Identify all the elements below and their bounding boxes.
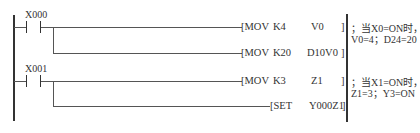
rung-2-instr-2-arg2: Y000Z1 [309, 100, 344, 112]
rung-2-instr-1-arg2: Z1 [311, 75, 323, 87]
right-power-rail [346, 14, 348, 122]
contact-label-x000: X000 [25, 9, 47, 20]
rung-1-instr-1-arg1: K4 [273, 21, 286, 33]
rung-2-comment-line2: Z1=3；Y3=ON [351, 88, 415, 99]
rung-1-wire-main [41, 27, 242, 28]
left-power-rail [13, 15, 15, 121]
rung-1-comment-line2: V0=4；D24=20 [351, 34, 417, 45]
rung-1-instr-2-arg2: D10V0 [307, 47, 338, 59]
rung-1-instr-1-arg2: V0 [311, 21, 324, 33]
rung-2-instr-2-close: ] [342, 100, 346, 112]
contact-label-x001: X001 [25, 63, 47, 74]
rung-1-instr-1-op: [MOV [241, 21, 269, 33]
rung-2-branch-vertical [53, 81, 54, 106]
rung-1-instr-2-arg1: K20 [273, 47, 291, 59]
rung-2-instr-1-arg1: K3 [273, 75, 286, 87]
rung-2-branch-wire [53, 106, 270, 107]
rung-2-wire-in [14, 81, 26, 82]
rung-1-branch-vertical [53, 27, 54, 53]
rung-2-instr-1-close: ] [341, 75, 345, 87]
rung-1-instr-1-close: ] [341, 21, 345, 33]
rung-2-comment-line1: ；当X1=ON时， [351, 77, 420, 88]
rung-1-instr-2-close: ] [341, 47, 345, 59]
rung-1-branch-wire [53, 53, 242, 54]
rung-1-wire-in [14, 27, 26, 28]
rung-1-comment-line1: ；当X0=ON时， [351, 23, 420, 34]
rung-2-instr-1-op: [MOV [241, 75, 269, 87]
rung-2-instr-2-op: [SET [270, 100, 292, 112]
rung-2-wire-main [41, 81, 242, 82]
rung-1-instr-2-op: [MOV [241, 47, 269, 59]
